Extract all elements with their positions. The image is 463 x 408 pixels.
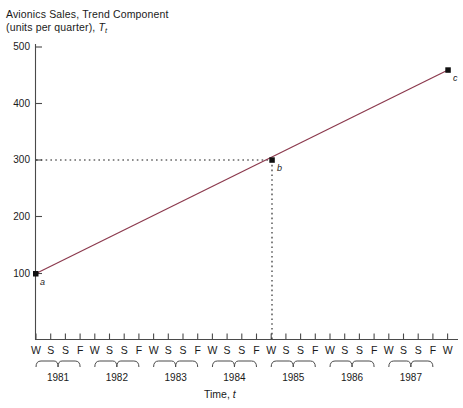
x-quarter-label: S bbox=[337, 344, 353, 356]
year-label: 1987 bbox=[381, 372, 441, 383]
x-quarter-label: F bbox=[131, 344, 147, 356]
x-quarter-label: S bbox=[102, 344, 118, 356]
year-brace bbox=[154, 361, 198, 367]
year-braces bbox=[36, 361, 433, 367]
year-brace bbox=[330, 361, 374, 367]
y-tick-label-100: 100 bbox=[4, 268, 30, 279]
y-tick-label-200: 200 bbox=[4, 211, 30, 222]
year-brace bbox=[271, 361, 315, 367]
x-quarter-label: W bbox=[322, 344, 338, 356]
x-quarter-label: W bbox=[204, 344, 220, 356]
x-quarter-label: S bbox=[219, 344, 235, 356]
x-quarter-label: S bbox=[410, 344, 426, 356]
point-label-b: b bbox=[277, 163, 282, 173]
x-quarter-label: W bbox=[28, 344, 44, 356]
x-axis-title-text: Time, bbox=[204, 388, 233, 400]
year-brace bbox=[389, 361, 433, 367]
data-point-a bbox=[33, 271, 39, 277]
x-quarter-label: S bbox=[116, 344, 132, 356]
year-brace bbox=[36, 361, 80, 367]
point-label-c: c bbox=[453, 73, 458, 83]
x-axis-title: Time, t bbox=[204, 388, 236, 400]
x-quarter-label: S bbox=[396, 344, 412, 356]
y-tick-label-400: 400 bbox=[4, 98, 30, 109]
y-tick-label-300: 300 bbox=[4, 154, 30, 165]
x-quarter-label: F bbox=[72, 344, 88, 356]
x-axis-title-symbol: t bbox=[233, 388, 236, 400]
x-quarter-label: W bbox=[381, 344, 397, 356]
x-quarter-label: W bbox=[263, 344, 279, 356]
data-point-c bbox=[445, 67, 451, 73]
year-label: 1983 bbox=[146, 372, 206, 383]
x-quarter-label: S bbox=[160, 344, 176, 356]
x-quarter-label: S bbox=[278, 344, 294, 356]
year-label: 1985 bbox=[263, 372, 323, 383]
data-point-b bbox=[269, 157, 275, 163]
x-quarter-label: S bbox=[43, 344, 59, 356]
x-quarter-label: W bbox=[87, 344, 103, 356]
x-quarter-label: S bbox=[351, 344, 367, 356]
point-label-a: a bbox=[40, 277, 45, 287]
year-label: 1986 bbox=[322, 372, 382, 383]
x-quarter-label: F bbox=[366, 344, 382, 356]
x-quarter-label: F bbox=[249, 344, 265, 356]
x-tick-marks bbox=[36, 334, 448, 340]
x-quarter-label: W bbox=[440, 344, 456, 356]
year-brace bbox=[212, 361, 256, 367]
y-tick-label-500: 500 bbox=[4, 41, 30, 52]
x-quarter-label: S bbox=[57, 344, 73, 356]
trend-line bbox=[36, 70, 448, 274]
year-brace bbox=[95, 361, 139, 367]
x-quarter-label: S bbox=[234, 344, 250, 356]
trend-component-chart: Avionics Sales, Trend Component (units p… bbox=[0, 0, 463, 408]
x-quarter-label: F bbox=[425, 344, 441, 356]
x-quarter-label: W bbox=[146, 344, 162, 356]
year-label: 1981 bbox=[28, 372, 88, 383]
year-label: 1982 bbox=[87, 372, 147, 383]
x-quarter-label: F bbox=[307, 344, 323, 356]
x-quarter-label: S bbox=[175, 344, 191, 356]
x-quarter-label: S bbox=[293, 344, 309, 356]
year-label: 1984 bbox=[204, 372, 264, 383]
x-quarter-label: F bbox=[190, 344, 206, 356]
